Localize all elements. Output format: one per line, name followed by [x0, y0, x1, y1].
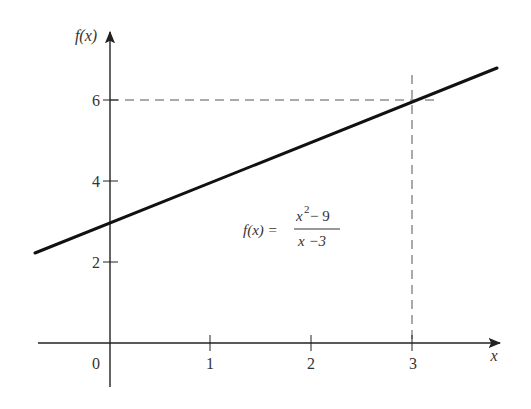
- formula-denominator: x −3: [297, 233, 326, 249]
- y-axis-label: f(x): [75, 27, 97, 45]
- x-axis-label: x: [489, 347, 497, 364]
- formula-numerator-base: x: [295, 208, 303, 224]
- y-tick-label-2: 2: [92, 254, 100, 271]
- x-tick-label-2: 2: [307, 355, 315, 372]
- x-tick-label-3: 3: [409, 355, 417, 372]
- formula-numerator-rest: − 9: [310, 208, 330, 224]
- y-tick-label-6: 6: [92, 92, 100, 109]
- function-plot: 0 1 2 3 6 4 2 f(x) x f(x) = x 2 − 9 x −3: [0, 0, 531, 409]
- y-tick-label-4: 4: [92, 173, 100, 190]
- x-tick-label-0: 0: [92, 355, 100, 372]
- formula-numerator-exponent: 2: [304, 203, 310, 215]
- formula-annotation: f(x) = x 2 − 9 x −3: [243, 203, 340, 249]
- formula-lhs: f(x) =: [243, 222, 278, 239]
- x-tick-label-1: 1: [206, 355, 214, 372]
